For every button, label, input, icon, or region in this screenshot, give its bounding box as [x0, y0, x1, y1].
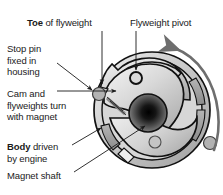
label-magnet-shaft-text: Magnet shaft — [7, 170, 61, 181]
label-cam: Cam and flyweights turn with magnet — [7, 88, 66, 123]
figure-canvas: Toe of flyweight Flyweight pivot Stop pi… — [0, 0, 223, 195]
label-flyweight-pivot-text: Flyweight pivot — [130, 17, 191, 28]
label-toe-bold: Toe — [27, 17, 43, 28]
label-body-rest: driven — [30, 141, 58, 152]
label-magnet-shaft: Magnet shaft — [7, 170, 61, 182]
magnet-shaft-circle — [129, 94, 167, 132]
label-body: Body driven by engine — [7, 141, 58, 164]
magnet-shaft-hub — [129, 94, 167, 132]
stop-pin-left — [93, 88, 106, 101]
lower-pivot-boss — [149, 136, 161, 148]
label-cam-line2: flyweights turn — [7, 100, 66, 112]
label-body-line2: by engine — [7, 153, 58, 165]
leader-stop-pin — [57, 63, 92, 90]
label-body-line1: Body driven — [7, 141, 58, 153]
label-cam-line3: with magnet — [7, 111, 66, 123]
flyweight-pivot-ring — [130, 72, 142, 84]
label-toe: Toe of flyweight — [27, 17, 92, 29]
label-body-bold: Body — [7, 141, 30, 152]
label-cam-line1: Cam and — [7, 88, 66, 100]
label-stop-pin-line2: fixed in — [7, 55, 41, 67]
flyweight-pivot — [130, 72, 142, 84]
label-stop-pin-line3: housing — [7, 66, 41, 78]
label-flyweight-pivot: Flyweight pivot — [130, 17, 191, 29]
leader-body — [72, 128, 101, 145]
label-toe-rest: of flyweight — [43, 17, 92, 28]
label-stop-pin: Stop pin fixed in housing — [7, 43, 41, 78]
label-stop-pin-line1: Stop pin — [7, 43, 41, 55]
